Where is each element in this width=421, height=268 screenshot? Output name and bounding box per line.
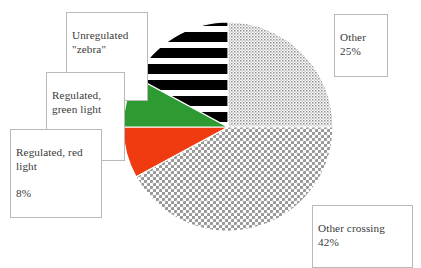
pie-slice-other <box>228 22 333 127</box>
callout-regulated-red-light: Regulated, red light 8% <box>10 129 102 218</box>
callout-line2: green light <box>52 103 119 116</box>
callout-line2: "zebra" <box>72 43 142 56</box>
callout-other-crossing: Other crossing 42% <box>312 205 413 268</box>
callout-line1: Unregulated <box>72 29 128 41</box>
callout-percent: 42% <box>318 236 407 249</box>
callout-line2: light <box>16 160 96 173</box>
callout-percent: 8% <box>16 187 96 200</box>
callout-line1: Regulated, <box>52 89 101 101</box>
callout-line1: Regulated, red <box>16 146 83 158</box>
callout-other: Other 25% <box>334 14 388 77</box>
callout-line1: Other crossing <box>318 222 385 234</box>
callout-line1: Other <box>340 31 366 43</box>
callout-percent: 25% <box>340 45 382 58</box>
